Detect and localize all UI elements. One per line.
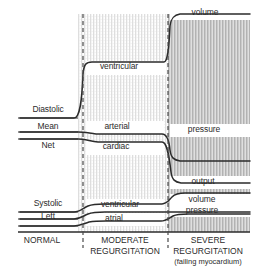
curve-label-arterial: arterial bbox=[104, 122, 129, 131]
curve-label-pressure-lower: pressure bbox=[186, 206, 218, 215]
axis-section-normal: NORMAL bbox=[24, 236, 60, 245]
curve-label-cardiac: cardiac bbox=[103, 142, 130, 151]
curve-label-output: output bbox=[191, 177, 214, 186]
left-label-mean: Mean bbox=[38, 122, 59, 131]
left-label-systolic: Systolic bbox=[34, 199, 63, 208]
diagram-canvas bbox=[0, 0, 260, 270]
axis-section-severe-sub: REGURGITATION bbox=[173, 247, 243, 256]
curve-label-volume-top: volume bbox=[192, 8, 219, 17]
curve-label-atrial: atrial bbox=[105, 214, 123, 223]
left-label-left: Left bbox=[41, 212, 55, 221]
left-label-net: Net bbox=[42, 141, 55, 150]
curve-label-pressure-arterial: pressure bbox=[188, 125, 220, 134]
axis-section-moderate: MODERATE bbox=[101, 236, 149, 245]
curve-label-ventricular-lower: ventricular bbox=[101, 200, 139, 209]
axis-section-severe: SEVERE bbox=[191, 236, 226, 245]
hemodynamic-diagram: Diastolic Mean Net Systolic Left volume … bbox=[0, 0, 260, 270]
left-label-rules bbox=[18, 118, 78, 226]
left-label-diastolic: Diastolic bbox=[32, 105, 63, 114]
axis-section-severe-sub2: (failing myocardium) bbox=[174, 258, 242, 266]
curve-label-volume-lower: volume bbox=[189, 195, 216, 204]
axis-section-moderate-sub: REGURGITATION bbox=[90, 247, 160, 256]
curve-label-ventricular-upper: ventricular bbox=[100, 62, 138, 71]
